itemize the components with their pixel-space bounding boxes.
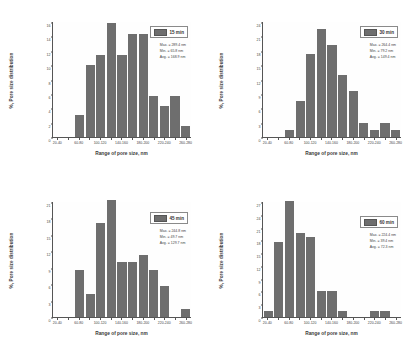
y-axis-label: %, Pore size distribution — [217, 22, 227, 138]
x-axis-label: Range of pore size, nm — [52, 151, 191, 156]
bar — [96, 55, 105, 137]
bar-column — [106, 22, 117, 137]
bar — [128, 34, 137, 137]
bar-column — [74, 202, 85, 317]
bar — [306, 54, 315, 137]
x-tick-mark — [111, 138, 112, 140]
bar-column — [127, 202, 138, 317]
bar — [317, 291, 326, 317]
x-tick-mark — [331, 138, 332, 140]
bar-column — [127, 22, 138, 137]
x-tick-mark — [353, 318, 354, 320]
figure-grid: %, Pore size distribution 0246810121416 … — [0, 0, 420, 359]
bar-column — [117, 202, 128, 317]
bar-column — [337, 202, 348, 317]
stat-avg: Avg. = 72.3 nm — [370, 244, 396, 250]
x-tick-mark — [100, 138, 101, 140]
x-tick-label: 60-80 — [284, 141, 293, 145]
x-tick-cell: 220-240 — [159, 318, 170, 330]
bar — [338, 311, 347, 317]
x-tick-mark — [79, 138, 80, 140]
bar — [139, 34, 148, 137]
bar — [86, 294, 95, 317]
bar-column — [53, 22, 64, 137]
bar-column — [74, 22, 85, 137]
x-tick-mark — [374, 138, 375, 140]
x-tick-label: 20-40 — [263, 321, 272, 325]
x-tick-mark — [374, 318, 375, 320]
bar-column — [148, 22, 159, 137]
x-tick-cell: 20-40 — [52, 318, 63, 330]
bar-column — [85, 22, 96, 137]
x-tick-cell: 220-240 — [159, 138, 170, 150]
bar — [75, 270, 84, 317]
legend-label: 60 min — [379, 220, 394, 225]
bar — [181, 126, 190, 137]
x-tick-label: 260-280 — [389, 141, 402, 145]
bar-column — [295, 22, 306, 137]
x-tick-mark — [175, 138, 176, 140]
bar — [327, 45, 336, 137]
x-tick-mark — [289, 138, 290, 140]
x-tick-cell: 180-200 — [348, 318, 359, 330]
bar-column — [327, 22, 338, 137]
bar — [380, 311, 389, 317]
bar-column — [369, 22, 380, 137]
x-tick-mark — [100, 318, 101, 320]
bar-column — [284, 22, 295, 137]
legend-box: 30 min — [360, 26, 398, 38]
legend-swatch-icon — [154, 215, 167, 222]
x-tick-mark — [175, 318, 176, 320]
bar-column — [106, 202, 117, 317]
x-tick-mark — [342, 318, 343, 320]
y-axis-label: %, Pore size distribution — [7, 22, 17, 138]
x-tick-mark — [385, 318, 386, 320]
bar — [285, 130, 294, 137]
x-tick-mark — [396, 318, 397, 320]
x-tick-mark — [299, 138, 300, 140]
x-tick-mark — [79, 318, 80, 320]
x-tick-cell: 140-160 — [326, 138, 337, 150]
x-tick-mark — [89, 318, 90, 320]
x-tick-mark — [310, 138, 311, 140]
x-tick-label: 260-280 — [179, 141, 192, 145]
legend-label: 45 min — [169, 216, 184, 221]
bar — [274, 242, 283, 317]
x-tick-cell: 60-80 — [283, 318, 294, 330]
plot-area: 0246810121416 15 min Max. = 289.4 nm Min… — [52, 22, 191, 138]
x-tick-cell: 220-240 — [369, 318, 380, 330]
x-tick-mark — [396, 138, 397, 140]
x-tick-mark — [154, 318, 155, 320]
bar-column — [316, 22, 327, 137]
x-tick-cell: 20-40 — [52, 138, 63, 150]
x-tick-mark — [132, 138, 133, 140]
bar-column — [263, 202, 274, 317]
x-tick-mark — [121, 318, 122, 320]
x-tick-mark — [164, 138, 165, 140]
plot-area: 036912151821 45 min Max. = 244.8 nm Min.… — [52, 202, 191, 318]
chart-panel-30min: %, Pore size distribution 03691215182124… — [210, 0, 420, 180]
x-tick-mark — [342, 138, 343, 140]
x-tick-mark — [364, 318, 365, 320]
bar — [380, 123, 389, 137]
statistics-annotation: Max. = 289.4 nm Min. = 65.8 nm Avg. = 16… — [160, 42, 186, 60]
bar — [349, 91, 358, 137]
bar-column — [327, 202, 338, 317]
x-tick-cell: 260-280 — [390, 138, 401, 150]
statistics-annotation: Max. = 264.4 nm Min. = 79.2 nm Avg. = 14… — [370, 42, 396, 60]
statistics-annotation: Max. = 244.8 nm Min. = 49.7 nm Avg. = 12… — [160, 228, 186, 246]
x-tick-mark — [321, 318, 322, 320]
bar-column — [170, 22, 181, 137]
stat-avg: Avg. = 149.4 nm — [370, 54, 396, 60]
bar — [327, 291, 336, 317]
bar-column — [64, 22, 75, 137]
x-tick-mark — [89, 138, 90, 140]
chart-panel-60min: %, Pore size distribution 03691215182124… — [210, 180, 420, 359]
bar-column — [180, 22, 191, 137]
bar — [170, 96, 179, 137]
bar — [391, 130, 400, 137]
plot-area: 03691215182124 30 min Max. = 264.4 nm Mi… — [262, 22, 401, 138]
x-tick-cell: 60-80 — [283, 138, 294, 150]
x-tick-label: 60-80 — [74, 141, 83, 145]
x-tick-mark — [267, 318, 268, 320]
